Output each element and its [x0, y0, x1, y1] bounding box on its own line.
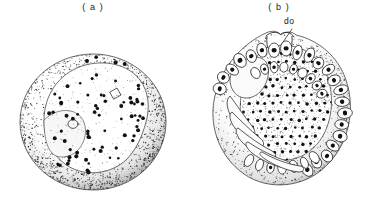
figure-root: ( a )	[0, 0, 372, 217]
panel-b-drawing	[186, 0, 372, 217]
yolk-cell	[280, 41, 291, 56]
yolk-cell	[335, 97, 350, 107]
specimen-b	[207, 29, 353, 190]
yolk-cell	[268, 43, 279, 57]
figure-panel-a: ( a )	[0, 0, 186, 217]
panel-a-caption: ( a )	[0, 1, 186, 13]
figure-panel-b: ( b ) do	[186, 0, 372, 217]
specimen-a	[20, 54, 167, 191]
panel-a-drawing	[0, 0, 186, 217]
panel-b-caption: ( b )	[186, 1, 372, 13]
callout-label-do: do	[284, 16, 294, 26]
